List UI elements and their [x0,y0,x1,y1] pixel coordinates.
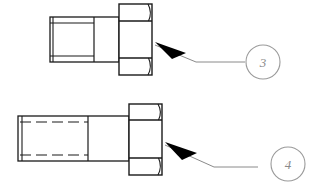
lower-bolt-view: 4 [18,104,305,181]
upper-bolt-view: 3 [50,4,280,79]
drawing-sheet: 3 [0,0,328,196]
balloon-label-3: 3 [259,55,267,70]
lower-shank-outline [18,116,129,161]
upper-bolt-head [119,4,152,75]
balloon-callout-3[interactable]: 3 [246,45,280,79]
lower-bolt-shank [18,116,129,161]
balloon-label-4: 4 [285,157,292,172]
balloon-callout-4[interactable]: 4 [271,147,305,181]
lower-leader [165,142,258,167]
technical-drawing-canvas: 3 [0,0,328,196]
upper-head-outline [119,4,152,75]
lower-head-outline [129,104,162,175]
lower-bolt-head [129,104,162,175]
upper-bolt-shank [50,17,119,62]
upper-shank-outline [50,17,119,62]
upper-leader [155,42,245,62]
